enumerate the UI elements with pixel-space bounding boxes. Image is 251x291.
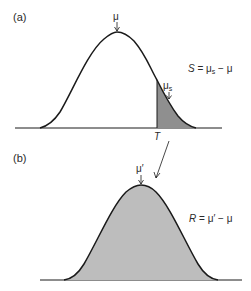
response-equation: R = μ′ − μ (189, 213, 233, 224)
panel-a-label: (a) (13, 11, 26, 23)
selection-differential-equation: S = μs − μ (188, 63, 233, 75)
panel-a: (a) μ μs T S = μs − μ (13, 11, 233, 142)
selected-mean-label: μs (163, 80, 173, 92)
generation-arrow (154, 141, 169, 178)
threshold-label: T (154, 131, 161, 142)
selection-response-diagram: (a) μ μs T S = μs − μ (b) (0, 0, 251, 291)
panel-b-label: (b) (13, 152, 26, 164)
offspring-distribution-shading (64, 185, 218, 280)
mean-label-a: μ (113, 11, 119, 22)
panel-b: (b) μ′ R = μ′ − μ (13, 152, 242, 280)
offspring-mean-label: μ′ (136, 163, 144, 174)
